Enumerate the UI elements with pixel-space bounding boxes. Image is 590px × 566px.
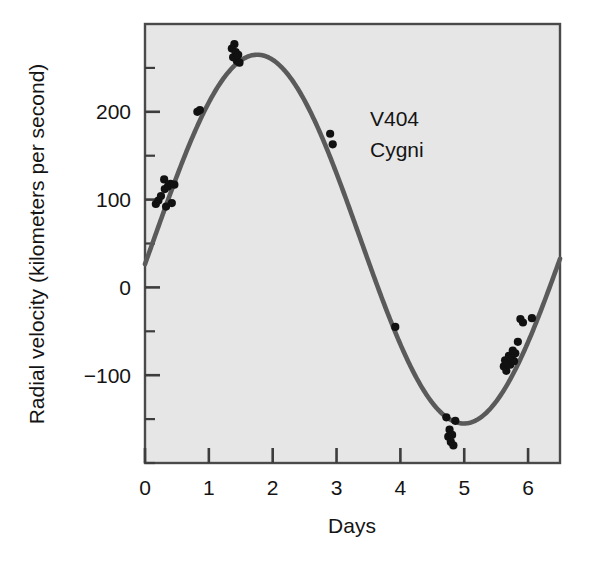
data-point xyxy=(234,51,242,59)
x-tick-label: 2 xyxy=(267,476,279,499)
data-point xyxy=(157,192,165,200)
x-tick-label: 5 xyxy=(458,476,470,499)
y-tick-label: −100 xyxy=(84,364,131,387)
data-point xyxy=(528,314,536,322)
annotation-line-1: V404 xyxy=(370,107,419,130)
data-point xyxy=(442,413,450,421)
data-point xyxy=(168,199,176,207)
x-tick-label: 3 xyxy=(331,476,343,499)
x-axis-title: Days xyxy=(328,514,376,537)
x-axis-tick-labels: 0123456 xyxy=(139,476,534,499)
y-tick-label: 100 xyxy=(96,188,131,211)
data-point xyxy=(230,40,238,48)
x-tick-label: 1 xyxy=(203,476,215,499)
data-point xyxy=(519,318,527,326)
data-point xyxy=(510,357,518,365)
data-point xyxy=(391,323,399,331)
data-point xyxy=(326,130,334,138)
x-tick-label: 0 xyxy=(139,476,151,499)
data-point xyxy=(514,338,522,346)
data-point xyxy=(451,417,459,425)
x-tick-label: 6 xyxy=(522,476,534,499)
y-axis-tick-labels: −1000100200 xyxy=(84,100,131,386)
y-axis-title: Radial velocity (kilometers per second) xyxy=(25,64,48,425)
data-point xyxy=(235,59,243,67)
y-tick-label: 200 xyxy=(96,100,131,123)
data-point xyxy=(329,140,337,148)
data-point xyxy=(511,349,519,357)
data-point xyxy=(449,441,457,449)
radial-velocity-figure: −1000100200 0123456 V404 Cygni Days Radi… xyxy=(0,0,590,566)
y-tick-label: 0 xyxy=(119,276,131,299)
data-point xyxy=(196,106,204,114)
data-point xyxy=(170,181,178,189)
x-tick-label: 4 xyxy=(395,476,407,499)
data-point xyxy=(448,431,456,439)
chart-canvas: −1000100200 0123456 V404 Cygni Days Radi… xyxy=(0,0,590,566)
annotation-line-2: Cygni xyxy=(370,138,424,161)
